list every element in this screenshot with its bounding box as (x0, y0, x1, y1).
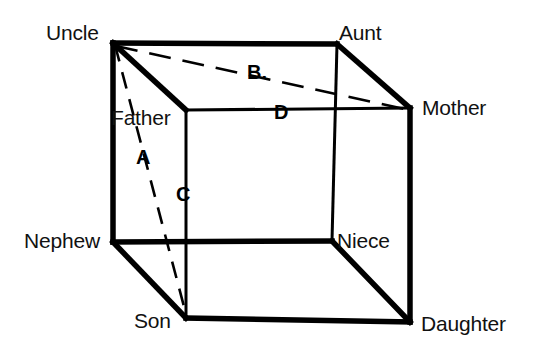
edge-label-a: A (136, 147, 150, 167)
edge-niece-daughter (332, 241, 410, 322)
edge-uncle-aunt (113, 43, 337, 44)
edge-nephew-son (113, 242, 186, 318)
edge-father-mother (186, 108, 410, 110)
vertex-label-nephew: Nephew (24, 230, 100, 251)
diagonal-a-uncle-son (115, 45, 187, 318)
cube-diagram-figure: Uncle Aunt Mother Father Nephew Niece So… (0, 0, 535, 356)
edge-label-d: D (274, 102, 288, 122)
edge-nephew-niece (113, 241, 332, 242)
edge-aunt-niece (332, 44, 337, 241)
vertex-label-niece: Niece (337, 230, 390, 251)
cube-thick-edges (113, 43, 410, 322)
edge-aunt-mother (337, 44, 410, 108)
vertex-label-son: Son (134, 310, 171, 331)
vertex-label-aunt: Aunt (339, 22, 381, 43)
edge-label-b: B. (247, 62, 267, 82)
cube-wireframe (0, 0, 535, 356)
vertex-label-daughter: Daughter (421, 313, 506, 334)
edge-son-daughter (186, 318, 410, 322)
edge-label-c: C (176, 184, 190, 204)
vertex-label-uncle: Uncle (46, 22, 99, 43)
vertex-label-mother: Mother (422, 97, 486, 118)
vertex-label-father: Father (111, 107, 171, 128)
